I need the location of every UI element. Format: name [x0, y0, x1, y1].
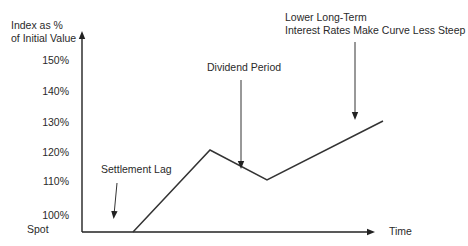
- y-tick-120: 120%: [29, 146, 69, 158]
- y-tick-150: 150%: [29, 54, 69, 66]
- origin-label-spot: Spot: [27, 223, 49, 236]
- y-tick-140: 140%: [29, 85, 69, 97]
- y-tick-100: 100%: [29, 209, 69, 221]
- settlement-lag-label: Settlement Lag: [101, 163, 172, 176]
- longterm-label-line2: Interest Rates Make Curve Less Steep: [285, 24, 465, 37]
- dividend-period-label: Dividend Period: [207, 61, 281, 74]
- y-axis-title-line1: Index as %: [11, 19, 63, 32]
- y-tick-110: 110%: [29, 175, 69, 187]
- x-axis-title: Time: [389, 225, 412, 238]
- y-tick-130: 130%: [29, 116, 69, 128]
- index-curve: [133, 121, 383, 232]
- settlement-arrow: [114, 183, 117, 215]
- y-axis-title-line2: of Initial Value: [11, 32, 76, 45]
- longterm-label-line1: Lower Long-Term: [285, 11, 367, 24]
